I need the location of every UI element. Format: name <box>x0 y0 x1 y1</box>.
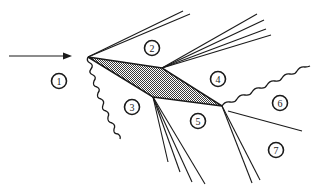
reflected-wave-lines-upper-left <box>88 11 190 57</box>
expansion-fan-lower <box>153 97 205 184</box>
arrow-right-icon <box>9 53 72 60</box>
region-2-label: 2 <box>150 43 155 54</box>
region-6: 6 <box>273 96 288 111</box>
region-7: 7 <box>269 143 284 158</box>
region-4-label: 4 <box>216 74 221 85</box>
region-6-label: 6 <box>278 98 283 109</box>
region-2: 2 <box>145 41 160 56</box>
region-4: 4 <box>211 72 226 87</box>
region-3-label: 3 <box>130 102 135 113</box>
expansion-fan-upper-right <box>162 14 271 68</box>
region-5: 5 <box>191 114 206 129</box>
wavy-boundary-right <box>222 66 310 106</box>
region-7-label: 7 <box>274 145 279 156</box>
shaded-interaction-region <box>88 57 222 106</box>
region-3: 3 <box>125 100 140 115</box>
wave-diagram: 1 2 3 4 5 6 7 <box>0 0 314 193</box>
contact-line-right <box>228 111 302 131</box>
region-5-label: 5 <box>196 116 201 127</box>
region-1: 1 <box>52 74 67 89</box>
region-1-label: 1 <box>57 76 62 87</box>
